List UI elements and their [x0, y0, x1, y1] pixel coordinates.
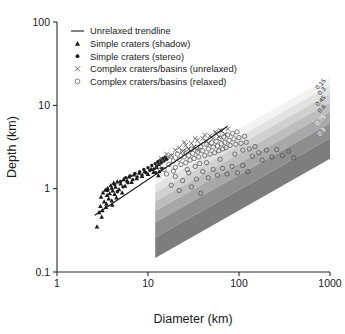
x-tick-labels: 1101001000 — [54, 277, 342, 289]
x-tick-label-1: 1 — [54, 277, 60, 289]
y-tick-label-10: 10 — [38, 99, 50, 111]
legend-item-3: Complex craters/basins (unrelaxed) — [75, 64, 237, 74]
legend-triangle-icon — [75, 41, 80, 46]
x-axis-ticks — [57, 272, 330, 276]
legend-circle-open-icon — [75, 79, 80, 84]
x-tick-label-10: 10 — [142, 277, 154, 289]
y-tick-label-0.1: 0.1 — [35, 266, 50, 278]
legend-item-2: Simple craters (stereo) — [76, 52, 184, 62]
legend-label-3: Complex craters/basins (unrelaxed) — [90, 64, 237, 74]
y-tick-labels: 0.1110100 — [32, 16, 50, 278]
legend-label-0: Unrelaxed trendline — [90, 26, 171, 36]
x-tick-label-1000: 1000 — [318, 277, 342, 289]
legend-label-1: Simple craters (shadow) — [90, 39, 190, 49]
legend-circle-fill-icon — [76, 54, 80, 58]
chart-canvas: 0.150.30.450.60.750.9 1101001000 0.11101… — [0, 0, 345, 334]
y-axis-ticks — [53, 22, 57, 272]
x-tick-label-100: 100 — [230, 277, 248, 289]
legend-item-4: Complex craters/basins (relaxed) — [75, 77, 226, 87]
legend-label-2: Simple craters (stereo) — [90, 52, 184, 62]
legend-label-4: Complex craters/basins (relaxed) — [90, 77, 226, 87]
legend-cross-icon — [75, 66, 80, 71]
legend-item-1: Simple craters (shadow) — [75, 39, 190, 49]
y-tick-label-100: 100 — [32, 16, 50, 28]
crater-depth-diameter-chart: 0.150.30.450.60.750.9 1101001000 0.11101… — [0, 0, 345, 334]
y-tick-label-1: 1 — [44, 182, 50, 194]
legend-item-0: Unrelaxed trendline — [71, 26, 171, 36]
series-0 — [95, 165, 161, 229]
x-axis-label: Diameter (km) — [153, 312, 232, 326]
chart-legend: Unrelaxed trendlineSimple craters (shado… — [71, 26, 237, 86]
y-axis-label: Depth (km) — [5, 116, 19, 178]
